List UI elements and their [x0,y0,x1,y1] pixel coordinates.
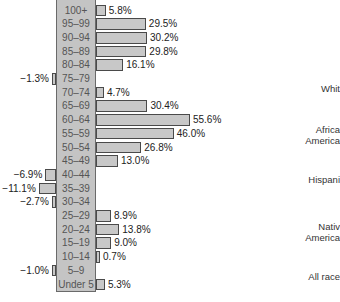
bar-row: 26.8%50–54 [0,141,340,155]
value-label: −1.0% [20,264,49,278]
value-label: 4.7% [107,86,130,100]
age-group-label: 50–54 [56,141,96,155]
age-group-label: 10–14 [56,250,96,264]
value-label: 29.5% [149,17,177,31]
age-group-label: 55–59 [56,127,96,141]
age-group-label: 45–49 [56,154,96,168]
data-bar [96,100,147,112]
bar-row: 13.0%45–49 [0,154,340,168]
bar-row: 5.8%100+ [0,4,340,18]
bar-row: 0.7%10–14 [0,250,340,264]
age-group-label: 20–24 [56,223,96,237]
bar-row: 4.7%70–74 [0,86,340,100]
legend-label: Hispani [308,174,340,185]
data-bar [45,169,56,181]
legend-label: Whit [321,83,340,94]
data-bar [96,155,118,167]
value-label: 30.2% [150,31,178,45]
value-label: 5.8% [109,4,132,18]
value-label: 13.8% [122,223,150,237]
age-group-label: 90–94 [56,31,96,45]
bar-row: −2.7%30–34 [0,195,340,209]
data-bar [39,183,56,195]
data-bar [96,114,190,126]
age-group-label: 75–79 [56,72,96,86]
bar-row: 9.0%15–19 [0,236,340,250]
legend-label: All race [308,271,340,282]
data-bar [96,87,104,99]
data-bar [96,237,111,249]
bar-row: 13.8%20–24 [0,223,340,237]
age-group-label: 95–99 [56,17,96,31]
bar-row: −1.0%5–9 [0,264,340,278]
age-group-label: 70–74 [56,86,96,100]
data-bar [96,18,146,30]
value-label: −2.7% [20,195,49,209]
bar-row: −11.1%35–39 [0,182,340,196]
data-bar [96,32,147,44]
value-label: −1.3% [20,72,49,86]
age-group-label: 40–44 [56,168,96,182]
legend-label: Nativ America [305,221,340,243]
bar-row: 30.2%90–94 [0,31,340,45]
data-bar [96,224,119,236]
age-group-label: 65–69 [56,99,96,113]
bar-row: 30.4%65–69 [0,99,340,113]
bar-row: 46.0%55–59 [0,127,340,141]
bar-row: 29.8%85–89 [0,45,340,59]
data-bar [96,59,123,71]
age-group-label: 85–89 [56,45,96,59]
age-group-label: 100+ [56,4,96,18]
population-change-chart: 5.8%100+29.5%95–9930.2%90–9429.8%85–8916… [0,0,340,302]
value-label: 5.3% [108,278,131,292]
data-bar [96,46,146,58]
age-group-label: 35–39 [56,182,96,196]
data-bar [96,142,141,154]
value-label: 30.4% [150,99,178,113]
bar-row: 55.6%60–64 [0,113,340,127]
age-group-label: 60–64 [56,113,96,127]
value-label: 0.7% [103,250,126,264]
value-label: 26.8% [144,141,172,155]
bar-row: 16.1%80–84 [0,58,340,72]
age-group-label: 5–9 [56,264,96,278]
value-label: 46.0% [177,127,205,141]
bar-row: 8.9%25–29 [0,209,340,223]
value-label: 29.8% [149,45,177,59]
age-group-label: 30–34 [56,195,96,209]
value-label: 8.9% [114,209,137,223]
data-bar [96,251,100,263]
value-label: 16.1% [126,58,154,72]
value-label: 9.0% [114,236,137,250]
data-bar [96,128,174,140]
age-group-label: 25–29 [56,209,96,223]
age-group-label: Under 5 [56,278,96,292]
data-bar [96,5,106,17]
legend-label: Africa America [305,124,340,146]
data-bar [96,279,105,291]
value-label: −6.9% [14,168,43,182]
value-label: 55.6% [193,113,221,127]
bar-row: 5.3%Under 5 [0,278,340,292]
value-label: 13.0% [121,154,149,168]
age-group-label: 80–84 [56,58,96,72]
data-bar [96,210,111,222]
value-label: −11.1% [2,182,35,196]
bar-row: 29.5%95–99 [0,17,340,31]
bar-row: −1.3%75–79 [0,72,340,86]
bar-row: −6.9%40–44 [0,168,340,182]
age-group-label: 15–19 [56,236,96,250]
